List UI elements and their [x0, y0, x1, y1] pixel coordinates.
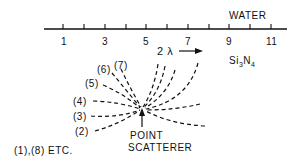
tick-label-7: 7 — [185, 37, 191, 47]
tick-label-3: 3 — [102, 37, 108, 47]
order-label-6: (6) — [97, 65, 111, 75]
tick-label-1: 1 — [61, 37, 67, 47]
order-label-5: (5) — [85, 79, 99, 89]
point-label: POINT — [130, 131, 163, 141]
tick-label-5: 5 — [143, 37, 149, 47]
wavelength-label: 2 λ — [157, 46, 173, 57]
substrate-label: Si3N4 — [229, 56, 255, 66]
water-label: WATER — [229, 11, 267, 21]
footnote-orders: (1),(8) ETC. — [14, 146, 73, 156]
substrate-sub-4: 4 — [251, 61, 255, 68]
substrate-n: N — [243, 55, 251, 66]
order-label-4: (4) — [73, 97, 87, 107]
tick-label-9: 9 — [226, 37, 232, 47]
wavelength-arrow-icon — [179, 48, 203, 54]
substrate-sub-3: 3 — [239, 61, 243, 68]
point-scatterer-arrow-icon — [139, 108, 145, 127]
order-label-7: (7) — [114, 61, 128, 71]
axis-ticks — [63, 24, 271, 29]
scatterer-label: SCATTERER — [128, 143, 192, 153]
substrate-si: Si — [229, 55, 239, 66]
order-label-2: (2) — [75, 127, 89, 137]
tick-label-11: 11 — [266, 37, 277, 47]
order-label-3: (3) — [73, 112, 87, 122]
